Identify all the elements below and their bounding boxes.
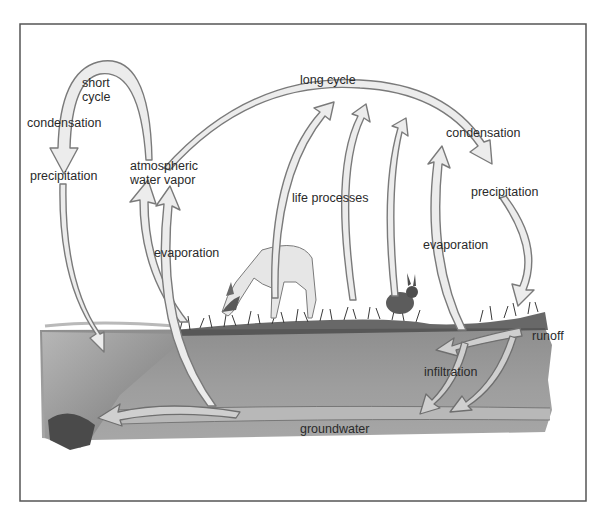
label-water-vapor: water vapor <box>129 173 195 187</box>
label-condensation-right: condensation <box>446 126 520 140</box>
label-runoff: runoff <box>532 329 564 343</box>
label-life-processes: life processes <box>292 191 368 205</box>
label-precipitation-right: precipitation <box>471 185 538 199</box>
label-short-cycle-1: short <box>82 76 110 90</box>
label-atmospheric: atmospheric <box>130 159 198 173</box>
label-evaporation-left: evaporation <box>154 246 219 260</box>
label-short-cycle-2: cycle <box>82 90 111 104</box>
label-evaporation-right: evaporation <box>423 238 488 252</box>
label-precipitation-left: precipitation <box>30 169 97 183</box>
label-infiltration: infiltration <box>424 365 478 379</box>
water-cycle-diagram: short cycle condensation precipitation a… <box>0 0 602 511</box>
label-long-cycle: long cycle <box>300 73 356 87</box>
soil-block <box>40 328 552 450</box>
label-condensation-left: condensation <box>27 116 101 130</box>
label-groundwater: groundwater <box>300 422 370 436</box>
